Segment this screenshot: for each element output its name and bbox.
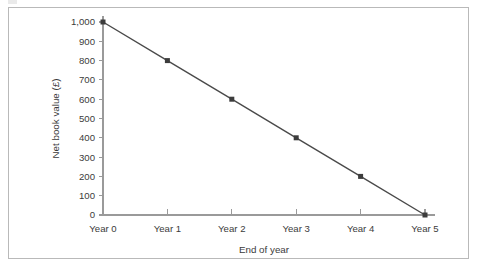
- y-tick-label: 400: [79, 132, 95, 143]
- y-tick-label: 700: [79, 74, 95, 85]
- y-tick-label: 600: [79, 94, 95, 105]
- data-point-marker: [294, 135, 299, 140]
- x-axis-group: Year 0Year 1Year 2Year 3Year 4Year 5: [89, 209, 438, 234]
- data-point-marker: [423, 213, 428, 218]
- x-tick-label: Year 5: [411, 223, 438, 234]
- x-tick-label: Year 2: [218, 223, 245, 234]
- y-tick-label: 100: [79, 190, 95, 201]
- y-tick-label: 800: [79, 55, 95, 66]
- series-line-net-book-value: [103, 22, 425, 215]
- x-tick-label: Year 1: [154, 223, 181, 234]
- chart-frame: 01002003004005006007008009001,000 Year 0…: [8, 7, 469, 259]
- y-tick-label: 0: [90, 209, 95, 220]
- line-chart: 01002003004005006007008009001,000 Year 0…: [9, 8, 470, 260]
- y-axis-title: Net book value (£): [50, 78, 61, 158]
- scan-artifact: [8, 0, 17, 4]
- x-tick-label: Year 0: [89, 223, 116, 234]
- x-tick-labels: Year 0Year 1Year 2Year 3Year 4Year 5: [89, 223, 438, 234]
- plot-area: 01002003004005006007008009001,000 Year 0…: [9, 8, 468, 258]
- data-point-marker: [165, 58, 170, 63]
- y-tick-label: 300: [79, 152, 95, 163]
- x-tick-label: Year 3: [283, 223, 310, 234]
- y-tick-label: 1,000: [71, 16, 95, 27]
- series-group: [101, 20, 428, 218]
- y-tick-labels: 01002003004005006007008009001,000: [71, 16, 95, 220]
- x-ticks: [103, 209, 425, 215]
- x-tick-label: Year 4: [347, 223, 375, 234]
- data-point-marker: [101, 20, 106, 25]
- y-axis-group: 01002003004005006007008009001,000: [71, 16, 103, 220]
- chart-page: 01002003004005006007008009001,000 Year 0…: [0, 0, 478, 269]
- y-ticks: [99, 22, 103, 215]
- data-point-marker: [229, 97, 234, 102]
- y-tick-label: 500: [79, 113, 95, 124]
- x-axis-title: End of year: [239, 244, 290, 255]
- data-point-marker: [358, 174, 363, 179]
- y-tick-label: 900: [79, 36, 95, 47]
- y-tick-label: 200: [79, 171, 95, 182]
